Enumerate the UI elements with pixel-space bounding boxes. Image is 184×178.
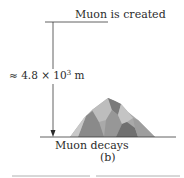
- times-symbol: ×: [41, 69, 50, 81]
- muon-created-label: Muon is created: [75, 9, 166, 20]
- mountain-icon: [70, 98, 155, 137]
- muon-decays-label: Muon decays: [55, 140, 129, 151]
- distance-label: ≈ 4.8 × 103 m: [9, 70, 85, 81]
- approx-symbol: ≈: [9, 69, 18, 81]
- distance-exponent: 3: [67, 69, 71, 77]
- distance-mantissa: 4.8: [21, 69, 38, 81]
- distance-base: 10: [53, 69, 66, 81]
- arrowhead-icon: [51, 130, 56, 137]
- part-label: (b): [100, 152, 116, 163]
- distance-unit: m: [75, 69, 85, 81]
